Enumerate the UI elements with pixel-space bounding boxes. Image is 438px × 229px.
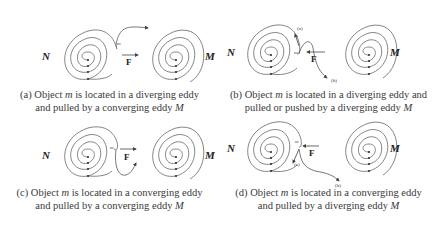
eddy-label-n: N [42,149,50,161]
spiral-n-a [65,30,117,80]
caption-c: (c) Object m is located in a converging … [0,187,219,212]
object-label-m: m [294,50,298,55]
object-label-m: m [117,41,121,46]
panel-d: N M m (a) (b) F (d) Object m is located … [219,115,438,229]
object-label-m: m [110,145,114,150]
diagram-d [219,115,438,195]
eddy-label-n: N [42,50,50,62]
spiral-m-a [153,30,204,82]
spiral-n-b [248,25,300,75]
spiral-n-c [65,127,118,177]
eddy-label-m: M [205,149,215,161]
eddy-label-n: N [227,142,235,154]
path-arrow-d-b [299,149,339,181]
eddy-label-m: M [390,46,400,58]
diagram-c [0,115,219,195]
panel-b: N M m (a) (b) F (b) Object m is located … [219,0,438,114]
panel-c: N M m F (c) Object m is located in a con… [0,115,219,229]
force-label: F [311,54,317,64]
caption-a: (a) Object m is located in a diverging e… [0,89,219,114]
path-label-a: (a) [297,26,303,31]
force-label: F [309,148,315,158]
diagram-b [219,0,438,90]
diagram-a [0,0,219,90]
eddy-label-n: N [227,46,235,58]
force-label: F [124,152,130,162]
path-label-b: (b) [331,78,337,83]
eddy-label-m: M [390,142,400,154]
spiral-m-c [153,127,204,179]
object-label-m: m [295,139,299,144]
panel-a: N M m F (a) Object m is located in a div… [0,0,219,114]
path-label-a: (a) [294,162,300,167]
path-arrow-d-a [293,149,299,163]
eddy-label-m: M [205,50,215,62]
caption-d: (d) Object m is located in a converging … [219,187,438,212]
force-label: F [126,57,132,67]
caption-b: (b) Object m is located in a diverging e… [219,89,438,114]
